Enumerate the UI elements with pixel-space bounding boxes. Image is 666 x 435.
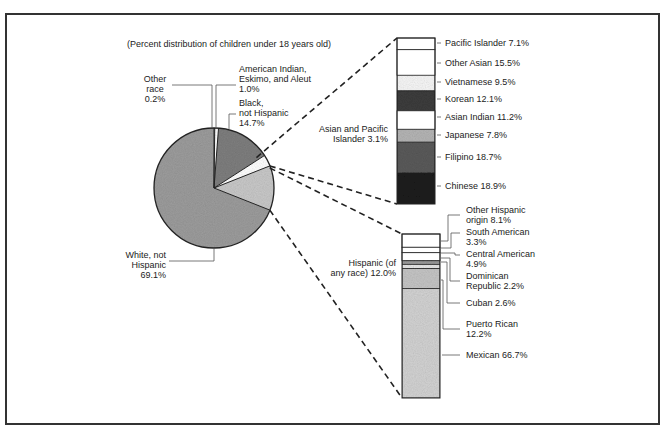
hispanic-segment-label: Puerto Rican12.2% xyxy=(466,319,518,339)
hispanic-segment-label: Other Hispanicorigin 8.1% xyxy=(466,205,526,225)
hispanic-stacked-bar xyxy=(402,234,440,398)
hispanic-segment-label: South American3.3% xyxy=(466,227,530,247)
hispanic-segment-label: DominicanRepublic 2.2% xyxy=(466,271,524,291)
bar-segment xyxy=(397,50,435,76)
asian-segment-label: Vietnamese 9.5% xyxy=(445,77,515,87)
asian-segment-label: Pacific Islander 7.1% xyxy=(445,38,529,48)
bar-segment xyxy=(402,234,440,247)
bar-segment xyxy=(402,247,440,252)
asian-stacked-bar xyxy=(397,38,435,204)
chart-subtitle: (Percent distribution of children under … xyxy=(127,39,331,49)
bar-segment xyxy=(402,261,440,265)
label-other-race: Otherrace0.2% xyxy=(137,74,173,104)
hispanic-segment-label: Central American4.9% xyxy=(466,249,535,269)
label-black: Black,not Hispanic14.7% xyxy=(239,98,289,128)
label-american-indian: American Indian,Eskimo, and Aleut1.0% xyxy=(239,64,311,94)
bar-segment xyxy=(402,264,440,268)
asian-bar-title: Asian and PacificIslander 3.1% xyxy=(300,124,388,144)
label-white: White, notHispanic69.1% xyxy=(118,250,166,280)
asian-segment-label: Korean 12.1% xyxy=(445,94,502,104)
hispanic-segment-label: Mexican 66.7% xyxy=(466,350,528,360)
bar-segment xyxy=(397,173,435,204)
bar-segment xyxy=(397,111,435,129)
asian-segment-label: Filipino 18.7% xyxy=(445,152,502,162)
bar-segment xyxy=(402,253,440,261)
hispanic-bar-title: Hispanic (ofany race) 12.0% xyxy=(310,258,396,278)
bar-segment xyxy=(397,75,435,91)
asian-segment-label: Japanese 7.8% xyxy=(445,130,507,140)
chart-canvas xyxy=(0,0,666,435)
bar-segment xyxy=(402,289,440,398)
asian-segment-label: Other Asian 15.5% xyxy=(445,58,520,68)
hispanic-segment-label: Cuban 2.6% xyxy=(466,298,516,308)
bar-segment xyxy=(397,91,435,111)
bar-segment xyxy=(397,38,435,50)
bar-segment xyxy=(402,269,440,289)
asian-segment-label: Chinese 18.9% xyxy=(445,181,506,191)
asian-segment-label: Asian Indian 11.2% xyxy=(445,112,522,122)
bar-segment xyxy=(397,129,435,142)
bar-segment xyxy=(397,142,435,173)
